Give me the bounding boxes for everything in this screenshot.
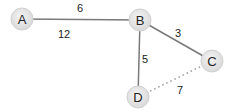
- node-c-label: C: [207, 54, 216, 69]
- node-b[interactable]: B: [129, 9, 151, 31]
- edge-label-3: 3: [175, 27, 181, 39]
- edge-label-12: 12: [58, 28, 70, 40]
- edge-b-d: [138, 20, 140, 97]
- edge-a-b: [22, 19, 140, 20]
- node-a[interactable]: A: [11, 8, 33, 30]
- graph-diagram: A B C D 6 12 3 5 7: [0, 0, 235, 112]
- node-d-label: D: [133, 90, 142, 105]
- node-b-label: B: [136, 13, 145, 28]
- edge-label-7: 7: [177, 84, 183, 96]
- edge-d-c-dotted: [138, 61, 212, 97]
- node-c[interactable]: C: [201, 50, 223, 72]
- edge-label-5: 5: [142, 53, 148, 65]
- edge-label-6: 6: [77, 2, 83, 14]
- node-d[interactable]: D: [127, 86, 149, 108]
- node-a-label: A: [18, 12, 27, 27]
